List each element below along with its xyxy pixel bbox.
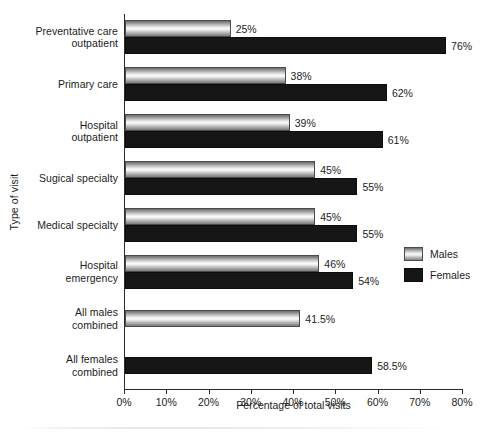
y-axis-title: Type of visit xyxy=(8,157,20,247)
category-label: All males combined xyxy=(10,306,118,331)
legend-label: Males xyxy=(430,248,458,260)
bar-value-label: 38% xyxy=(291,70,312,82)
bar-males xyxy=(125,20,231,37)
x-tick xyxy=(420,389,421,394)
bar-value-label: 41.5% xyxy=(305,313,335,325)
x-tick xyxy=(209,389,210,394)
x-tick xyxy=(335,389,336,394)
legend-item-females[interactable]: Females xyxy=(404,264,470,285)
bar-value-label: 58.5% xyxy=(377,360,407,372)
bar-value-label: 45% xyxy=(320,211,341,223)
x-tick xyxy=(378,389,379,394)
bar-females xyxy=(125,84,387,101)
x-tick xyxy=(124,389,125,394)
bar-value-label: 45% xyxy=(320,164,341,176)
scan-artifact xyxy=(22,427,452,429)
legend: MalesFemales xyxy=(404,243,470,285)
bar-females xyxy=(125,131,383,148)
x-tick xyxy=(251,389,252,394)
x-tick xyxy=(293,389,294,394)
bar-males xyxy=(125,67,286,84)
category-label: Hospital emergency xyxy=(10,259,118,284)
bar-value-label: 39% xyxy=(295,117,316,129)
bar-value-label: 54% xyxy=(358,275,379,287)
legend-item-males[interactable]: Males xyxy=(404,243,470,264)
bar-females xyxy=(125,357,372,374)
bar-males xyxy=(125,310,300,327)
bar-value-label: 61% xyxy=(388,134,409,146)
category-label: Sugical specialty xyxy=(10,172,118,184)
bar-value-label: 76% xyxy=(451,40,472,52)
bar-males xyxy=(125,255,319,272)
bar-females xyxy=(125,272,353,289)
bar-value-label: 46% xyxy=(324,258,345,270)
bar-value-label: 25% xyxy=(236,23,257,35)
x-axis-title: Percentage of total visits xyxy=(124,399,463,411)
bar-value-label: 55% xyxy=(362,228,383,240)
bar-males xyxy=(125,161,315,178)
legend-swatch-icon xyxy=(404,268,423,282)
legend-swatch-icon xyxy=(404,247,423,261)
bar-chart: Type of visit Preventative care outpatie… xyxy=(0,0,502,434)
category-label: Preventative care outpatient xyxy=(10,25,118,50)
bar-males xyxy=(125,114,290,131)
bar-value-label: 55% xyxy=(362,181,383,193)
bar-males xyxy=(125,208,315,225)
x-tick xyxy=(166,389,167,394)
category-label: Medical specialty xyxy=(10,219,118,231)
plot-area: 0%10%20%30%40%50%60%70%80% 25%76%38%62%3… xyxy=(124,14,462,389)
bar-females xyxy=(125,225,357,242)
category-label: Hospital outpatient xyxy=(10,119,118,144)
category-label: Primary care xyxy=(10,78,118,90)
legend-label: Females xyxy=(430,269,470,281)
bar-females xyxy=(125,37,446,54)
x-tick xyxy=(462,389,463,394)
category-label: All females combined xyxy=(10,353,118,378)
bar-females xyxy=(125,178,357,195)
bar-value-label: 62% xyxy=(392,87,413,99)
